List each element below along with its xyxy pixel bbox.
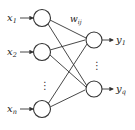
input-node-2 — [34, 44, 51, 61]
weight-label: wij — [70, 14, 82, 26]
input-arrows — [20, 18, 33, 109]
input-label-n: xn — [7, 103, 17, 116]
output-label-q: yq — [115, 83, 126, 96]
output-ellipsis: ⋮ — [92, 60, 102, 71]
connection-edges — [48, 20, 87, 107]
input-node-n — [34, 101, 51, 118]
input-node-1 — [34, 10, 51, 27]
output-node-q — [86, 81, 102, 97]
output-node-1 — [86, 32, 102, 48]
input-label-2: x2 — [7, 46, 17, 59]
output-label-1: y1 — [115, 34, 126, 47]
input-label-1: x1 — [7, 12, 17, 25]
neural-network-diagram: ⋮ ⋮ x1 x2 xn y1 yq wij — [0, 0, 135, 130]
output-arrows — [102, 40, 113, 89]
input-ellipsis: ⋮ — [40, 80, 50, 91]
